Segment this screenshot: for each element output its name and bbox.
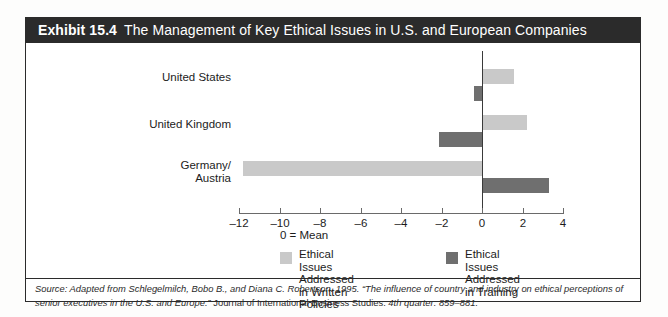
tick-label--12: –12: [229, 217, 248, 229]
category-axis: United States United Kingdom Germany/ Au…: [46, 43, 231, 213]
source-note: Source: Adapted from Schlegelmilch, Bobo…: [35, 282, 631, 309]
mean-annotation: 0 = Mean: [280, 229, 328, 241]
bar-germany-austria-written-policies: [243, 161, 482, 176]
tick-label-4: 4: [560, 217, 566, 229]
zero-reference-line: [482, 51, 483, 213]
chart-container: United States United Kingdom Germany/ Au…: [26, 43, 640, 278]
tick-mark-0: [482, 208, 483, 214]
bar-united-states-training: [474, 86, 482, 101]
page-title: The Management of Key Ethical Issues in …: [124, 22, 587, 38]
tick-mark-4: [563, 208, 564, 214]
tick-label--10: –10: [270, 217, 289, 229]
tick-mark--6: [361, 208, 362, 214]
bar-germany-austria-training: [482, 178, 549, 193]
legend-swatch-training: [446, 252, 458, 264]
bar-united-kingdom-training: [439, 132, 482, 147]
tick-label--2: –2: [436, 217, 449, 229]
category-label-united-kingdom: United Kingdom: [149, 118, 231, 131]
tick-mark-2: [523, 208, 524, 214]
bar-united-kingdom-written-policies: [482, 115, 527, 130]
tick-label--4: –4: [395, 217, 408, 229]
category-label-germany-austria: Germany/ Austria: [181, 159, 232, 185]
tick-mark--8: [320, 208, 321, 214]
tick-label-2: 2: [520, 217, 526, 229]
plot-area: United States United Kingdom Germany/ Au…: [26, 43, 640, 221]
tick-mark--2: [442, 208, 443, 214]
tick-label--8: –8: [314, 217, 327, 229]
category-label-united-states: United States: [162, 71, 231, 84]
exhibit-title-bar: Exhibit 15.4The Management of Key Ethica…: [26, 18, 640, 43]
tick-label-0: 0: [479, 217, 485, 229]
tick-label--6: –6: [355, 217, 368, 229]
chart-legend: 0 = Mean Ethical Issues Addressed in Wri…: [26, 229, 640, 277]
bar-united-states-written-policies: [482, 69, 514, 84]
page-background: Exhibit 15.4The Management of Key Ethica…: [0, 0, 668, 317]
source-divider: [26, 278, 640, 279]
source-journal-name: Journal of International Business Studie…: [213, 297, 388, 308]
source-citation-suffix: 4th quarter: 859–881.: [388, 297, 478, 308]
tick-mark--12: [239, 208, 240, 214]
tick-mark--10: [280, 208, 281, 214]
tick-mark--4: [401, 208, 402, 214]
legend-swatch-written-policies: [280, 252, 292, 264]
exhibit-number: Exhibit 15.4: [38, 22, 117, 38]
exhibit-frame: Exhibit 15.4The Management of Key Ethica…: [25, 17, 641, 302]
